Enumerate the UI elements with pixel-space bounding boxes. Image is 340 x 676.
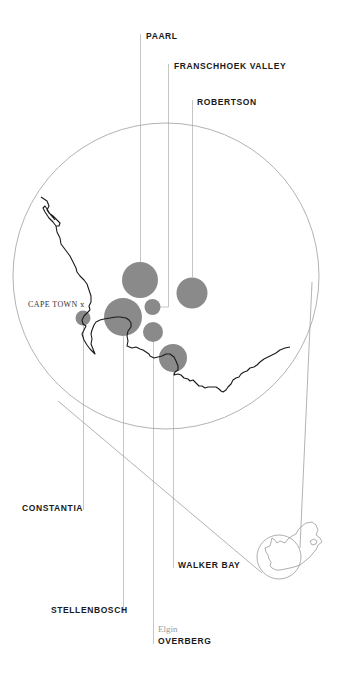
bubble-paarl[interactable] — [122, 262, 158, 298]
leader-line-franschhoek — [160, 64, 169, 307]
wine-region-map — [0, 0, 340, 676]
label-constantia[interactable]: CONSTANTIA — [22, 503, 83, 513]
label-franschhoek[interactable]: FRANSCHHOEK VALLEY — [174, 61, 286, 71]
bubble-overberg[interactable] — [143, 322, 163, 342]
bubble-walker-bay[interactable] — [159, 344, 187, 372]
city-name: CAPE TOWN — [28, 300, 78, 309]
bubble-franschhoek[interactable] — [145, 299, 161, 315]
zoom-circle — [13, 123, 319, 429]
label-paarl[interactable]: PAARL — [146, 31, 178, 41]
sublabel-elgin: Elgin — [158, 624, 178, 634]
label-stellenbosch[interactable]: STELLENBOSCH — [51, 605, 128, 615]
inset-locator — [257, 522, 322, 579]
region-bubbles — [76, 262, 208, 372]
bubble-robertson[interactable] — [177, 278, 208, 309]
city-label-cape-town: CAPE TOWN ⅹ — [28, 300, 85, 310]
label-robertson[interactable]: ROBERTSON — [197, 97, 257, 107]
label-overberg[interactable]: OVERBERG — [158, 636, 211, 646]
label-walker-bay[interactable]: WALKER BAY — [178, 560, 240, 570]
lesotho-outline-icon — [310, 539, 317, 545]
south-africa-outline-icon — [265, 522, 322, 570]
city-marker-icon: ⅹ — [80, 301, 84, 309]
